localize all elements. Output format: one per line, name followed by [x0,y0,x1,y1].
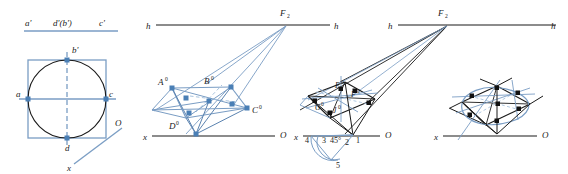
label-d-b-prime: d'(b') [53,18,72,28]
label-num-1: 1 [356,136,360,145]
label-A0-sup: 0 [165,76,168,82]
label-D0: D [168,121,176,131]
label-num-5: 5 [336,161,340,170]
label-x-panel4: x [433,132,438,142]
label-a-prime: a' [25,18,33,28]
label-O-panel2: O [280,130,287,140]
label-h-right-panel2: h [334,21,339,31]
label-G0-sup: 0 [321,101,324,107]
label-O-panel1: O [115,118,122,128]
vanishing-rays-panel2 [154,26,286,134]
label-h-left-panel2: h [146,21,151,31]
label-J0: J [333,106,337,115]
diagram-canvas: a' d'(b') c' a c b' d O x [0,0,568,174]
label-b-prime-point: b' [72,45,80,55]
label-a: a [16,89,21,99]
panel-2-perspective-step-1: h h F 2 x O [142,8,339,142]
label-F2-subscript-panel3: 2 [445,13,448,19]
label-c: c [109,89,113,99]
label-angle-45: 45° [330,136,341,145]
label-h-right-panel4: h [551,21,556,31]
quad-nodes-panel2 [170,85,250,137]
panel-3-perspective-step-2: h F 2 x O [293,8,556,170]
label-x-panel2: x [142,132,147,142]
panel-4-perspective-result: h x O [433,21,556,142]
label-D0-sup: 0 [176,120,179,126]
ground-axis-diagonal [74,128,122,164]
panel-1-orthographic-views: a' d'(b') c' a c b' d O x [16,18,122,173]
label-C0: C [252,105,259,115]
label-c-prime: c' [99,18,106,28]
label-F0-sup: 0 [357,88,360,94]
label-E0: E [334,81,340,90]
label-A0: A [157,77,164,87]
point-c [104,97,109,102]
label-F2-panel3: F [437,8,444,18]
point-d [65,136,70,141]
label-d: d [65,143,70,153]
label-B0-sup: 0 [211,75,214,81]
vanishing-rays-blue-panel3 [308,26,447,100]
label-x-panel3: x [293,132,298,142]
point-b-prime [65,58,70,63]
label-F0: F [350,90,356,99]
label-F2-panel2: F [279,8,286,18]
label-E0-sup: 0 [341,79,344,85]
label-num-4: 4 [305,136,309,145]
label-C0-sup: 0 [259,104,262,110]
point-a [26,97,31,102]
figure-root: a' d'(b') c' a c b' d O x [0,0,568,174]
label-O-panel3: O [385,130,392,140]
label-B0: B [204,76,210,86]
label-x-panel1: x [66,163,71,173]
label-num-3: 3 [322,136,326,145]
label-F2-subscript-panel2: 2 [287,13,290,19]
label-O-panel4: O [542,130,549,140]
label-h-left-panel3: h [388,21,393,31]
label-num-2: 2 [345,138,349,147]
label-J0-sup: 0 [338,104,341,110]
